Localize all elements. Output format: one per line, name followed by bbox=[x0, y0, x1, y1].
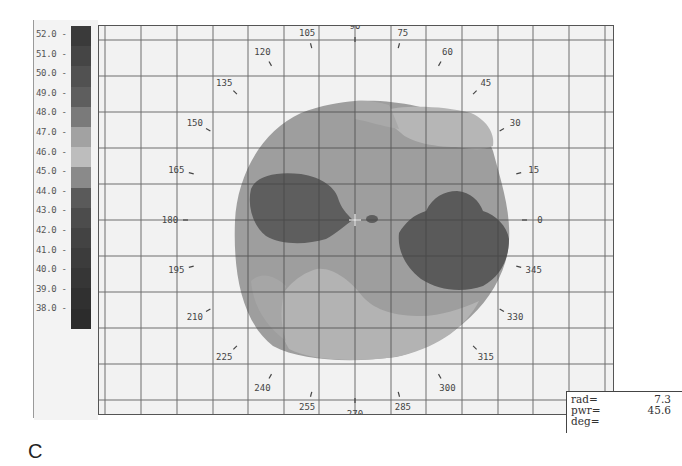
colorbar-tick-label: 41.0 - bbox=[36, 245, 72, 255]
angle-label: 45 bbox=[480, 78, 491, 88]
angle-label: 75 bbox=[397, 28, 408, 38]
angle-label: 240 bbox=[254, 383, 270, 393]
colorbar-tick-label: 44.0 - bbox=[36, 186, 72, 196]
angle-label: 225 bbox=[216, 352, 232, 362]
colorbar-tick-label: 45.0 - bbox=[36, 166, 72, 176]
angle-label: 105 bbox=[299, 28, 315, 38]
colorbar-tick-label: 47.0 - bbox=[36, 127, 72, 137]
angle-label: 210 bbox=[187, 312, 203, 322]
angle-label: 60 bbox=[442, 47, 453, 57]
colorbar-tick-label: 52.0 - bbox=[36, 29, 72, 39]
colorbar-tick-label: 43.0 - bbox=[36, 205, 72, 215]
colorbar-tick-label: 39.0 - bbox=[36, 284, 72, 294]
angle-label: 30 bbox=[510, 118, 521, 128]
angle-label: 135 bbox=[216, 78, 232, 88]
colorbar-segment bbox=[71, 26, 91, 46]
colorbar-tick-label: 49.0 - bbox=[36, 88, 72, 98]
angle-label: 165 bbox=[168, 165, 184, 175]
colorbar-segment bbox=[71, 147, 91, 167]
colorbar-tick-label: 42.0 - bbox=[36, 225, 72, 235]
angle-label: 255 bbox=[299, 402, 315, 412]
colorbar-segment bbox=[71, 127, 91, 147]
colorbar-tick-label: 48.0 - bbox=[36, 107, 72, 117]
colorbar-tick-label: 38.0 - bbox=[36, 303, 72, 313]
angle-label: 300 bbox=[439, 383, 455, 393]
colorbar-segment bbox=[71, 268, 91, 288]
colorbar-segment bbox=[71, 87, 91, 107]
colorbar-tick-label: 51.0 - bbox=[36, 49, 72, 59]
colorbar-segment bbox=[71, 66, 91, 86]
panel-label: C bbox=[28, 440, 42, 463]
topography-plot: 0153045607590105120135150165180195210225… bbox=[99, 26, 614, 415]
colorbar-segment bbox=[71, 107, 91, 127]
colorbar-segment bbox=[71, 228, 91, 248]
angle-label: 0 bbox=[537, 215, 542, 225]
angle-label: 270 bbox=[347, 409, 363, 415]
angle-label: 150 bbox=[187, 118, 203, 128]
topography-map[interactable]: 0153045607590105120135150165180195210225… bbox=[98, 25, 614, 415]
angle-label: 90 bbox=[350, 26, 361, 31]
angle-label: 180 bbox=[162, 215, 178, 225]
colorbar-segment bbox=[71, 248, 91, 268]
colorbar-segment bbox=[71, 46, 91, 66]
colorbar bbox=[71, 26, 91, 329]
colorbar-segment bbox=[71, 167, 91, 187]
colorbar-tick-label: 50.0 - bbox=[36, 68, 72, 78]
angle-label: 330 bbox=[507, 312, 523, 322]
colorbar-segment bbox=[71, 188, 91, 208]
colorbar-tick-label: 46.0 - bbox=[36, 147, 72, 157]
angle-label: 315 bbox=[478, 352, 494, 362]
cursor-readout: rad=7.3 pwr=45.6 deg= bbox=[566, 391, 682, 433]
angle-label: 195 bbox=[168, 265, 184, 275]
colorbar-segment bbox=[71, 309, 91, 329]
angle-label: 285 bbox=[395, 402, 411, 412]
angle-label: 345 bbox=[526, 265, 542, 275]
colorbar-tick-label: 40.0 - bbox=[36, 264, 72, 274]
colorbar-segment bbox=[71, 288, 91, 308]
angle-label: 15 bbox=[528, 165, 539, 175]
readout-deg: deg= bbox=[571, 416, 682, 427]
angle-label: 120 bbox=[254, 47, 270, 57]
colorbar-segment bbox=[71, 208, 91, 228]
